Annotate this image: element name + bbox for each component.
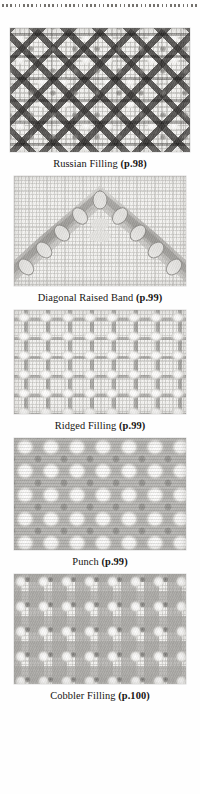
figure-ridged-filling: Ridged Filling (p.99): [0, 310, 200, 432]
stitch-name: Punch: [72, 556, 98, 567]
stitch-mark-texture: [10, 28, 190, 152]
figure-cobbler-filling: Cobbler Filling (p.100): [0, 574, 200, 702]
stitch-shadow-texture: [14, 574, 186, 684]
caption-diagonal-raised-band: Diagonal Raised Band (p.99): [0, 291, 200, 304]
puff-stitch-texture: [14, 310, 186, 414]
figure-punch: Punch (p.99): [0, 438, 200, 568]
book-page: Russian Filling (p.98): [0, 0, 200, 794]
caption-russian-filling: Russian Filling (p.98): [0, 157, 200, 170]
stitch-name: Diagonal Raised Band: [38, 292, 134, 303]
stitch-name: Ridged Filling: [55, 420, 117, 431]
caption-punch: Punch (p.99): [0, 555, 200, 568]
page-reference: (p.99): [136, 292, 162, 303]
stitch-name: Russian Filling: [53, 158, 118, 169]
thread-texture: [14, 438, 186, 550]
caption-cobbler-filling: Cobbler Filling (p.100): [0, 689, 200, 702]
photo-cobbler-filling: [14, 574, 186, 684]
caption-ridged-filling: Ridged Filling (p.99): [0, 419, 200, 432]
stitch-name: Cobbler Filling: [50, 690, 115, 701]
dotted-rule-divider: [2, 4, 198, 7]
photo-diagonal-raised-band: [14, 176, 186, 286]
photo-russian-filling: [10, 28, 190, 152]
photo-ridged-filling: [14, 310, 186, 414]
photo-punch: [14, 438, 186, 550]
raised-band-chevron: [14, 176, 186, 286]
figure-russian-filling: Russian Filling (p.98): [0, 28, 200, 170]
page-reference: (p.99): [101, 556, 127, 567]
figure-diagonal-raised-band: Diagonal Raised Band (p.99): [0, 176, 200, 304]
page-reference: (p.100): [118, 690, 150, 701]
figure-stack: Russian Filling (p.98): [0, 28, 200, 708]
page-reference: (p.98): [121, 158, 147, 169]
page-reference: (p.99): [119, 420, 145, 431]
